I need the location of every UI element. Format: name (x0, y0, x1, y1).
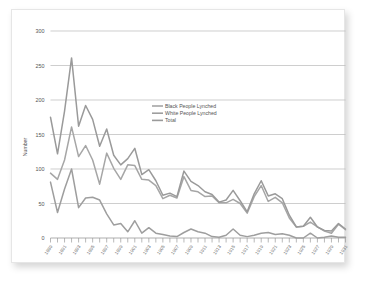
x-tick-label: 1907 (170, 244, 180, 256)
x-tick-label: 1923 (282, 244, 292, 256)
x-tick-label: 1919 (254, 244, 264, 256)
chart-legend: Black People LynchedWhite People Lynched… (152, 103, 217, 123)
x-tick-label: 1891 (58, 244, 68, 256)
x-tick-label: 1903 (142, 244, 152, 256)
x-tick-label: 1905 (156, 244, 166, 256)
x-tick-label: 1931 (339, 244, 349, 256)
series-line-0 (51, 127, 346, 233)
x-tick-label: 1897 (100, 244, 110, 256)
x-tick-label: 1913 (212, 244, 222, 256)
x-tick-label: 1893 (72, 244, 82, 256)
line-chart-svg: 050100150200250300 188918911893189518971… (0, 0, 366, 284)
y-tick-label: 150 (36, 132, 45, 138)
y-axis-title: Number (22, 138, 28, 157)
gridlines-group (51, 31, 346, 238)
x-tick-label: 1889 (44, 244, 54, 256)
y-tick-label: 300 (36, 28, 45, 34)
x-tick-label: 1895 (86, 244, 96, 256)
series-lines-group (51, 58, 346, 238)
y-tick-label: 200 (36, 97, 45, 103)
chart-figure: 050100150200250300 188918911893189518971… (0, 0, 366, 284)
legend-label-2: Total (165, 117, 176, 123)
y-tick-labels-group: 050100150200250300 (36, 28, 45, 241)
x-tick-label: 1925 (296, 244, 306, 256)
y-tick-label: 250 (36, 63, 45, 69)
x-tick-label: 1927 (310, 244, 320, 256)
legend-label-0: Black People Lynched (165, 103, 216, 109)
x-tick-label: 1915 (226, 244, 236, 256)
x-tick-labels-group: 1889189118931895189718991901190319051907… (44, 244, 349, 256)
x-tick-label: 1901 (128, 244, 138, 256)
x-tick-label: 1911 (198, 244, 208, 255)
series-line-2 (51, 58, 346, 231)
x-tick-label: 1929 (325, 244, 335, 256)
x-tick-label: 1917 (240, 244, 250, 256)
y-tick-label: 100 (36, 166, 45, 172)
legend-label-1: White People Lynched (165, 110, 217, 116)
x-tick-label: 1909 (184, 244, 194, 256)
x-tick-label: 1899 (114, 244, 124, 256)
y-tick-label: 0 (42, 235, 45, 241)
x-tick-label: 1921 (268, 244, 278, 256)
y-tick-label: 50 (39, 201, 45, 207)
